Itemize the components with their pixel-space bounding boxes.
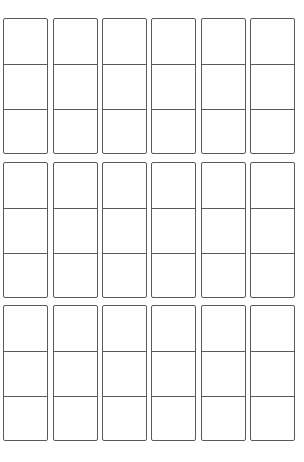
cell (152, 396, 195, 440)
cell (202, 306, 245, 351)
cell (152, 306, 195, 351)
cell (103, 109, 146, 153)
cell (4, 64, 47, 109)
strip-1 (3, 305, 48, 441)
cell (103, 19, 146, 64)
cell (152, 109, 195, 153)
strip-2 (53, 305, 98, 441)
strip-2 (53, 18, 98, 154)
cell (103, 253, 146, 297)
cell (251, 19, 294, 64)
cell (4, 109, 47, 153)
cell (103, 306, 146, 351)
cell (103, 163, 146, 208)
strip-3 (102, 18, 147, 154)
grid-block-1 (3, 18, 296, 154)
cell (103, 396, 146, 440)
cell (54, 306, 97, 351)
cell (103, 351, 146, 396)
cell (54, 64, 97, 109)
cell (54, 19, 97, 64)
cell (251, 306, 294, 351)
cell (152, 253, 195, 297)
cell (152, 163, 195, 208)
cell (202, 396, 245, 440)
cell (202, 64, 245, 109)
cell (4, 306, 47, 351)
cell (54, 351, 97, 396)
cell (4, 253, 47, 297)
strip-5 (201, 305, 246, 441)
cell (251, 64, 294, 109)
cell (54, 396, 97, 440)
cell (54, 253, 97, 297)
cell (54, 163, 97, 208)
cell (54, 109, 97, 153)
strip-1 (3, 162, 48, 298)
cell (202, 19, 245, 64)
cell (251, 109, 294, 153)
cell (202, 253, 245, 297)
strip-3 (102, 305, 147, 441)
cell (103, 208, 146, 253)
strip-5 (201, 162, 246, 298)
cell (4, 396, 47, 440)
strip-4 (151, 162, 196, 298)
strip-4 (151, 305, 196, 441)
cell (202, 351, 245, 396)
cell (54, 208, 97, 253)
cell (103, 64, 146, 109)
cell (4, 19, 47, 64)
strip-1 (3, 18, 48, 154)
cell (251, 396, 294, 440)
strip-6 (250, 18, 295, 154)
cell (152, 208, 195, 253)
cell (251, 253, 294, 297)
grid-block-3 (3, 305, 296, 441)
cell (202, 109, 245, 153)
strip-4 (151, 18, 196, 154)
cell (202, 208, 245, 253)
grid-block-2 (3, 162, 296, 298)
strip-6 (250, 305, 295, 441)
cell (251, 208, 294, 253)
cell (251, 351, 294, 396)
strip-5 (201, 18, 246, 154)
cell (4, 351, 47, 396)
strip-2 (53, 162, 98, 298)
cell (152, 351, 195, 396)
cell (202, 163, 245, 208)
cell (4, 208, 47, 253)
strip-6 (250, 162, 295, 298)
strip-3 (102, 162, 147, 298)
cell (4, 163, 47, 208)
cell (152, 64, 195, 109)
cell (251, 163, 294, 208)
cell (152, 19, 195, 64)
